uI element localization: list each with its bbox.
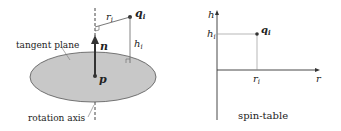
tangent-plane bbox=[30, 52, 156, 102]
right-diagram: h r hi ri qi spin-table bbox=[207, 9, 322, 121]
n-label: n bbox=[100, 40, 108, 53]
h-axis-label: h bbox=[208, 9, 214, 20]
q-label: qi bbox=[135, 7, 146, 21]
diagram: tangent plane rotation axis n p qi ri hi… bbox=[0, 0, 341, 131]
left-diagram: tangent plane rotation axis n p qi ri hi bbox=[16, 7, 156, 123]
point-p bbox=[93, 74, 97, 78]
h-label: hi bbox=[134, 38, 143, 51]
normal-arrow-icon bbox=[91, 35, 99, 44]
spin-table-caption: spin-table bbox=[238, 110, 288, 121]
h-axis-arrow-icon bbox=[215, 10, 219, 15]
r-axis-arrow-icon bbox=[315, 68, 320, 72]
axis-leader bbox=[88, 105, 94, 117]
p-label: p bbox=[99, 73, 107, 86]
tangent-plane-label: tangent plane bbox=[16, 40, 79, 50]
qi-label: qi bbox=[261, 24, 271, 37]
h-tick-label: hi bbox=[207, 28, 216, 41]
r-label: ri bbox=[106, 11, 113, 24]
point-qi bbox=[255, 32, 259, 36]
rotation-axis-label: rotation axis bbox=[28, 113, 86, 123]
r-tick-label: ri bbox=[253, 73, 260, 86]
r-axis-label: r bbox=[316, 73, 322, 84]
